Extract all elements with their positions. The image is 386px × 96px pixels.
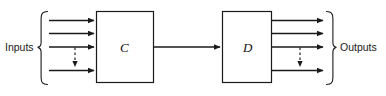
outputs-brace <box>327 12 337 85</box>
input-arrows-group <box>49 21 94 71</box>
inputs-label: Inputs <box>5 42 34 53</box>
outputs-label: Outputs <box>340 42 377 53</box>
diagram-svg <box>0 0 386 96</box>
output-arrows-group <box>272 21 323 71</box>
block-d-label: D <box>243 41 252 54</box>
block-c-label: C <box>120 41 129 54</box>
diagram-canvas: Inputs Outputs C D <box>0 0 386 96</box>
inputs-brace <box>38 12 48 85</box>
